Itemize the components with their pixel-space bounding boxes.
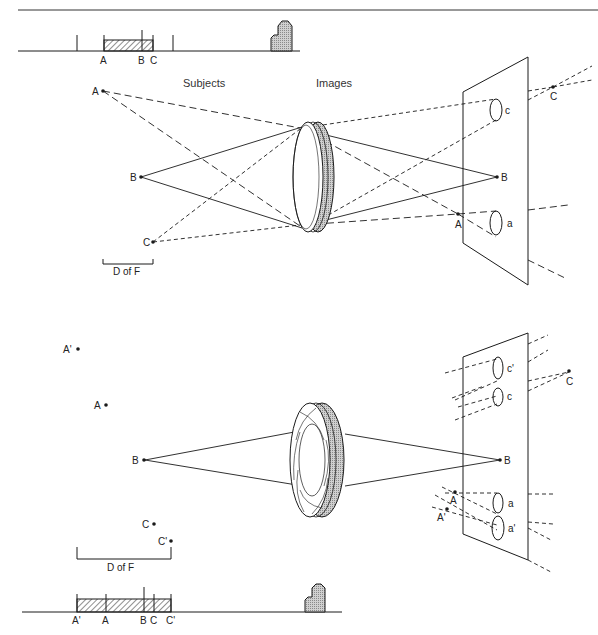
dof-label-bottom: D of F: [107, 562, 134, 573]
image-b-label-bottom: B: [504, 455, 511, 466]
subject-points-top: [101, 89, 155, 244]
image-a-label-top: A: [455, 219, 462, 230]
image-a-prime-label-bottom: A': [437, 512, 446, 523]
subject-a-label-bottom: A: [94, 400, 101, 411]
dof-bracket-bottom: [77, 547, 171, 559]
blur-label-c-prime: c': [507, 363, 514, 374]
subject-points-bottom: [76, 347, 173, 543]
images-heading: Images: [316, 77, 353, 89]
image-c-label-top: C: [550, 91, 557, 102]
subject-c-label-bottom: C: [142, 519, 149, 530]
subjects-heading: Subjects: [183, 77, 226, 89]
image-c-label-bottom: C: [566, 376, 573, 387]
blur-label-c-bottom: c: [507, 391, 512, 402]
subject-c-prime-label: C': [158, 536, 167, 547]
top-scale-label-c: C: [150, 55, 157, 66]
subject-c-label-top: C: [143, 237, 150, 248]
top-scale-label-b: B: [138, 55, 145, 66]
bottom-scale-label-b: B: [140, 615, 147, 626]
lens-bottom: [290, 403, 344, 517]
bottom-scale-bar: [22, 587, 342, 612]
blur-label-a-prime: a': [508, 523, 516, 534]
blur-label-c-top: c: [505, 105, 510, 116]
blur-label-a-bottom: a: [508, 498, 514, 509]
image-plane-bottom: [463, 333, 528, 560]
bottom-scale-label-a-prime: A': [72, 615, 81, 626]
dof-label-top: D of F: [113, 266, 140, 277]
image-a-label-bottom: A: [450, 495, 457, 506]
bottom-scale-label-c-prime: C': [166, 615, 175, 626]
lens-top: [293, 122, 334, 232]
bottom-scale-label-a: A: [102, 615, 109, 626]
subject-b-label-bottom: B: [132, 455, 139, 466]
bottom-scale-label-c: C: [150, 615, 157, 626]
camera-icon-bottom: [305, 584, 325, 612]
camera-icon: [271, 21, 292, 51]
subject-a-prime-label: A': [63, 344, 72, 355]
image-b-label-top: B: [501, 172, 508, 183]
top-scale-label-a: A: [100, 55, 107, 66]
blur-label-a-top: a: [507, 218, 513, 229]
subject-a-label-top: A: [92, 86, 99, 97]
depth-of-field-diagram: A B C Subjects Images: [0, 0, 598, 635]
dof-bracket-top: [103, 259, 153, 264]
subject-b-label-top: B: [130, 172, 137, 183]
top-scale-bar: [18, 30, 300, 51]
